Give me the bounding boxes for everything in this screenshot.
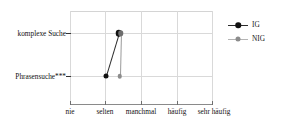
x-axis-label-sehr-haeufig: sehr häufig <box>198 107 231 116</box>
legend-marker-nig-icon <box>228 34 248 44</box>
legend-label-nig: NIG <box>252 35 265 42</box>
x-axis-label-nie: nie <box>66 107 75 116</box>
gridline-vertical-nie <box>70 11 71 104</box>
x-axis-tick-4 <box>212 101 213 105</box>
data-point-nig-phrasensuche <box>117 74 122 79</box>
x-axis-tick-0 <box>70 101 71 105</box>
gridline-vertical-haeufig <box>177 11 178 104</box>
legend-label-ig: IG <box>252 21 260 28</box>
plot-area <box>70 11 213 104</box>
x-axis-tick-3 <box>177 101 178 105</box>
legend-entry-ig: IG <box>228 18 265 32</box>
y-axis-tick-komplexe-suche <box>66 33 71 34</box>
gridline-vertical-sehr-haeufig <box>212 11 213 104</box>
legend-marker-ig-icon <box>228 20 248 30</box>
data-point-nig-komplexe-suche <box>118 30 124 36</box>
y-axis-label-komplexe-suche: komplexe Suche <box>18 29 66 38</box>
gridline-vertical-selten <box>105 11 106 104</box>
x-axis-label-manchmal: manchmal <box>126 107 156 116</box>
x-axis-tick-2 <box>141 101 142 105</box>
series-line-ig <box>106 33 120 76</box>
x-axis-label-haeufig: häufig <box>168 107 187 116</box>
gridline-vertical-manchmal <box>141 11 142 104</box>
gridline-horizontal-phrasensuche <box>70 76 213 77</box>
chart-legend: IG NIG <box>228 18 265 46</box>
chart-figure: nie selten manchmal häufig sehr häufig k… <box>0 0 286 126</box>
y-axis-tick-phrasensuche <box>66 76 71 77</box>
y-axis-label-phrasensuche: Phrasensuche*** <box>15 72 66 81</box>
x-axis-tick-1 <box>105 101 106 105</box>
x-axis-label-selten: selten <box>96 107 113 116</box>
legend-entry-nig: NIG <box>228 32 265 46</box>
series-line-nig <box>120 33 122 76</box>
data-point-ig-phrasensuche <box>103 74 108 79</box>
gridline-horizontal-komplexe-suche <box>70 33 213 34</box>
